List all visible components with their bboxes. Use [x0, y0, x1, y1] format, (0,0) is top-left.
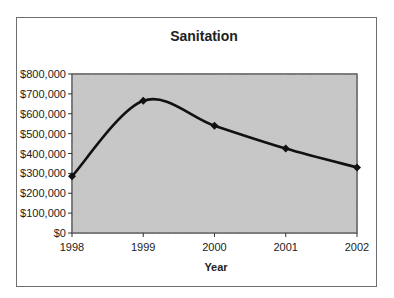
- x-tick-label: 1999: [131, 241, 155, 253]
- y-tick-label: $100,000: [20, 207, 66, 219]
- plot-texture: [72, 74, 357, 233]
- y-tick-label: $400,000: [20, 148, 66, 160]
- y-tick-label: $800,000: [20, 68, 66, 80]
- y-tick-label: $500,000: [20, 128, 66, 140]
- x-tick-label: 2002: [345, 241, 369, 253]
- x-tick-label: 2000: [202, 241, 226, 253]
- y-tick-label: $600,000: [20, 108, 66, 120]
- chart: Sanitation $0$100,000$200,000$300,000$40…: [0, 0, 394, 298]
- y-tick-label: $700,000: [20, 88, 66, 100]
- x-axis-label: Year: [204, 261, 228, 273]
- y-tick-label: $0: [54, 227, 66, 239]
- chart-title: Sanitation: [170, 28, 238, 44]
- x-tick-label: 2001: [274, 241, 298, 253]
- y-tick-label: $300,000: [20, 167, 66, 179]
- y-axis: $0$100,000$200,000$300,000$400,000$500,0…: [20, 68, 72, 239]
- x-tick-label: 1998: [60, 241, 84, 253]
- plot-area: [72, 74, 357, 233]
- y-tick-label: $200,000: [20, 187, 66, 199]
